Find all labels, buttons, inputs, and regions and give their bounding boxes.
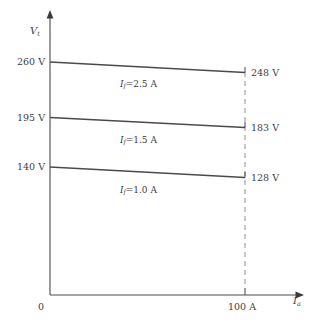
x-axis: [50, 292, 304, 299]
y-axis-label: Vt: [30, 26, 40, 36]
curve-annotation-value: =2.5 A: [126, 79, 157, 89]
endpoint-label-128v: 128 V: [251, 173, 279, 183]
endpoint-label-183v: 183 V: [251, 123, 279, 133]
x-axis-label: Ia: [293, 296, 301, 306]
x-axis-label-subscript: a: [297, 300, 301, 308]
y-tick-label-260v: 260 V: [7, 57, 45, 67]
curve-if-1-0a: [50, 167, 245, 178]
y-axis: [47, 10, 54, 295]
chart-plot-area: [0, 0, 323, 323]
curve-annotation-value: =1.0 A: [126, 185, 157, 195]
y-axis-label-subscript: t: [37, 30, 40, 38]
curve-annotation-value: =1.5 A: [126, 135, 157, 145]
x-tick-label-origin: 0: [38, 302, 44, 312]
y-tick-label-140v: 140 V: [7, 162, 45, 172]
curve-annotation-if-1-5a: If=1.5 A: [120, 136, 157, 145]
curve-annotation-if-1-0a: If=1.0 A: [120, 186, 157, 195]
x-tick-label-100a: 100 A: [228, 302, 256, 312]
endpoint-label-248v: 248 V: [251, 68, 279, 78]
curve-if-1-5a: [50, 118, 245, 128]
curve-annotation-if-2-5a: If=2.5 A: [120, 80, 157, 89]
figure-canvas: Vt Ia 260 V 195 V 140 V 248 V 183 V 128 …: [0, 0, 323, 323]
y-tick-label-195v: 195 V: [7, 113, 45, 123]
curve-if-2-5a: [50, 62, 245, 73]
